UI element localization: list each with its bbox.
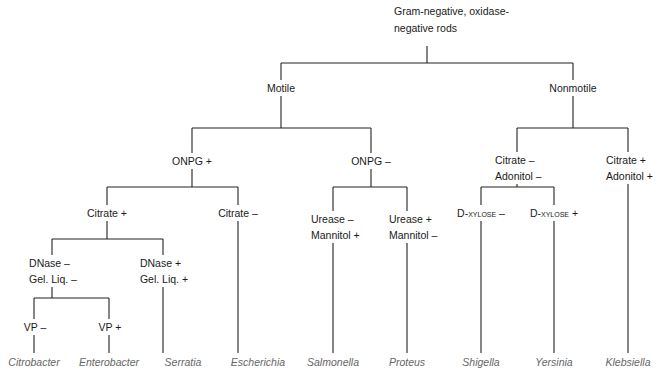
- node-citrate-negative: Citrate –: [217, 205, 259, 221]
- node-urease-positive: Urease + Mannitol –: [388, 211, 438, 243]
- node-citrate-adonitol-negative: Citrate – Adonitol –: [494, 152, 543, 184]
- genus-serratia: Serratia: [165, 355, 202, 369]
- node-urease-pos-label: Urease +: [389, 211, 437, 227]
- genus-escherichia: Escherichia: [231, 355, 285, 369]
- node-dxylose-positive: D-xylose +: [529, 205, 579, 221]
- node-adonitol-neg-label: Adonitol –: [495, 168, 542, 184]
- node-dnase-positive: DNase + Gel. Liq. +: [139, 255, 189, 287]
- node-urease-neg-label: Urease –: [311, 211, 360, 227]
- node-gelliq-neg-label: Gel. Liq. –: [29, 271, 77, 287]
- node-dnase-negative: DNase – Gel. Liq. –: [28, 255, 78, 287]
- root-node: Gram-negative, oxidase- negative rods: [394, 3, 509, 37]
- node-citrate-adonitol-positive: Citrate + Adonitol +: [605, 152, 654, 184]
- genus-shigella: Shigella: [462, 355, 499, 369]
- genus-salmonella: Salmonella: [307, 355, 359, 369]
- node-onpg-positive: ONPG +: [171, 153, 213, 169]
- root-label-line1: Gram-negative, oxidase-: [394, 3, 509, 20]
- node-citrate-positive: Citrate +: [86, 205, 128, 221]
- genus-citrobacter: Citrobacter: [8, 355, 59, 369]
- genus-klebsiella: Klebsiella: [606, 355, 651, 369]
- node-nonmotile: Nonmotile: [548, 80, 597, 96]
- genus-enterobacter: Enterobacter: [79, 355, 139, 369]
- node-adonitol-pos-label: Adonitol +: [606, 168, 653, 184]
- node-dxylose-negative: D-xylose –: [456, 205, 506, 221]
- node-citrate-pos-label: Citrate +: [606, 152, 653, 168]
- node-onpg-negative: ONPG –: [350, 153, 392, 169]
- node-citrate-neg-label: Citrate –: [495, 152, 542, 168]
- node-motile: Motile: [266, 80, 296, 96]
- genus-proteus: Proteus: [389, 355, 425, 369]
- root-label-line2: negative rods: [394, 20, 509, 37]
- node-mannitol-neg-label: Mannitol –: [389, 227, 437, 243]
- node-dnase-neg-label: DNase –: [29, 255, 77, 271]
- node-vp-negative: VP –: [23, 319, 48, 335]
- node-dnase-pos-label: DNase +: [140, 255, 188, 271]
- genus-yersinia: Yersinia: [535, 355, 572, 369]
- node-mannitol-pos-label: Mannitol +: [311, 227, 360, 243]
- node-vp-positive: VP +: [98, 319, 123, 335]
- node-urease-negative: Urease – Mannitol +: [310, 211, 361, 243]
- node-gelliq-pos-label: Gel. Liq. +: [140, 271, 188, 287]
